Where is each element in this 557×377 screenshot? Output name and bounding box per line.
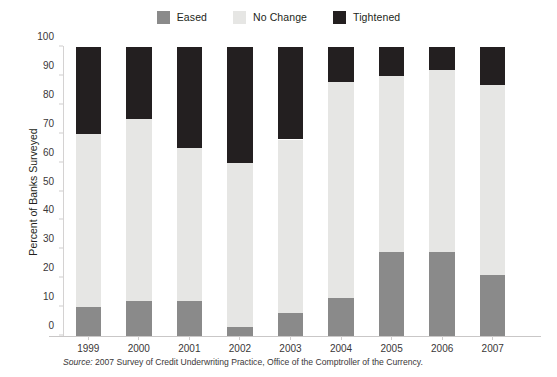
bar-segment-no-change-2002 <box>227 163 252 328</box>
bar-segment-eased-2000 <box>126 301 151 336</box>
bar-segment-tightened-2002 <box>227 47 252 163</box>
y-tick-label-20: 20 <box>43 262 63 273</box>
y-tick-label-80: 80 <box>43 88 63 99</box>
bar-stack-2001 <box>177 47 202 336</box>
legend-swatch-eased <box>157 11 170 24</box>
bar-segment-eased-2007 <box>480 275 505 336</box>
x-tick-mark-2001 <box>189 336 190 340</box>
legend-label-eased: Eased <box>177 11 207 23</box>
x-tick-mark-2005 <box>391 336 392 340</box>
x-tick-mark-1999 <box>88 336 89 340</box>
legend-swatch-no-change <box>233 11 246 24</box>
bar-segment-eased-2006 <box>429 252 454 336</box>
bar-segment-no-change-2005 <box>379 76 404 252</box>
bar-segment-tightened-2006 <box>429 47 454 70</box>
source-note: Source: 2007 Survey of Credit Underwriti… <box>63 357 423 367</box>
bar-column-2003: 2003 <box>278 47 303 336</box>
x-tick-mark-2000 <box>138 336 139 340</box>
x-tick-mark-2006 <box>442 336 443 340</box>
y-tick-label-90: 90 <box>43 59 63 70</box>
x-tick-label-2004: 2004 <box>330 343 352 354</box>
bar-segment-tightened-1999 <box>76 47 101 134</box>
y-tick-label-30: 30 <box>43 233 63 244</box>
bar-segment-eased-2002 <box>227 327 252 336</box>
y-tick-label-60: 60 <box>43 146 63 157</box>
bar-segment-no-change-2001 <box>177 148 202 301</box>
bar-segment-tightened-2001 <box>177 47 202 148</box>
bar-segment-eased-2004 <box>328 298 353 336</box>
bar-stack-2006 <box>429 47 454 336</box>
x-tick-label-1999: 1999 <box>77 343 99 354</box>
x-tick-label-2003: 2003 <box>279 343 301 354</box>
x-tick-label-2006: 2006 <box>431 343 453 354</box>
legend-item-tightened: Tightened <box>333 11 400 24</box>
bar-stack-2004 <box>328 47 353 336</box>
legend-label-no-change: No Change <box>253 11 307 23</box>
legend-label-tightened: Tightened <box>353 11 400 23</box>
bar-series-group: 199920002001200220032004200520062007 <box>63 47 518 336</box>
bar-segment-no-change-2006 <box>429 70 454 252</box>
x-tick-label-2005: 2005 <box>380 343 402 354</box>
x-tick-mark-2007 <box>492 336 493 340</box>
bar-column-2002: 2002 <box>227 47 252 336</box>
x-tick-label-2002: 2002 <box>229 343 251 354</box>
bar-segment-tightened-2003 <box>278 47 303 139</box>
bar-column-2007: 2007 <box>480 47 505 336</box>
x-tick-mark-2004 <box>341 336 342 340</box>
bar-segment-no-change-2004 <box>328 82 353 299</box>
bar-segment-tightened-2004 <box>328 47 353 82</box>
source-text: 2007 Survey of Credit Underwriting Pract… <box>93 357 423 367</box>
bar-column-2004: 2004 <box>328 47 353 336</box>
bar-column-2006: 2006 <box>429 47 454 336</box>
bar-segment-no-change-2007 <box>480 85 505 276</box>
bar-segment-eased-2005 <box>379 252 404 336</box>
bar-segment-no-change-2000 <box>126 119 151 301</box>
bar-segment-eased-2001 <box>177 301 202 336</box>
bar-stack-2002 <box>227 47 252 336</box>
bar-segment-no-change-1999 <box>76 134 101 307</box>
y-tick-label-10: 10 <box>43 291 63 302</box>
bar-segment-tightened-2007 <box>480 47 505 85</box>
legend-swatch-tightened <box>333 11 346 24</box>
bar-segment-eased-1999 <box>76 307 101 336</box>
bar-column-2000: 2000 <box>126 47 151 336</box>
y-tick-label-70: 70 <box>43 117 63 128</box>
bar-stack-2007 <box>480 47 505 336</box>
legend-item-eased: Eased <box>157 11 207 24</box>
y-axis-title: Percent of Banks Surveyed <box>27 128 39 255</box>
bar-column-2001: 2001 <box>177 47 202 336</box>
x-tick-label-2000: 2000 <box>128 343 150 354</box>
source-label: Source: <box>63 357 93 367</box>
x-tick-label-2007: 2007 <box>482 343 504 354</box>
x-tick-mark-2003 <box>290 336 291 340</box>
y-tick-label-100: 100 <box>37 31 63 42</box>
x-axis-line <box>49 336 541 337</box>
x-tick-label-2001: 2001 <box>178 343 200 354</box>
y-tick-label-40: 40 <box>43 204 63 215</box>
y-tick-label-50: 50 <box>43 175 63 186</box>
bar-column-1999: 1999 <box>76 47 101 336</box>
bar-segment-eased-2003 <box>278 313 303 336</box>
bar-stack-1999 <box>76 47 101 336</box>
bar-segment-tightened-2000 <box>126 47 151 119</box>
bar-stack-2005 <box>379 47 404 336</box>
bar-segment-tightened-2005 <box>379 47 404 76</box>
plot-area: Percent of Banks Surveyed 01020304050607… <box>63 47 518 336</box>
legend-item-no-change: No Change <box>233 11 307 24</box>
bar-column-2005: 2005 <box>379 47 404 336</box>
bar-stack-2000 <box>126 47 151 336</box>
x-tick-mark-2002 <box>239 336 240 340</box>
chart-legend: EasedNo ChangeTightened <box>0 8 557 26</box>
bar-stack-2003 <box>278 47 303 336</box>
y-tick-label-0: 0 <box>48 320 63 331</box>
bar-segment-no-change-2003 <box>278 140 303 313</box>
